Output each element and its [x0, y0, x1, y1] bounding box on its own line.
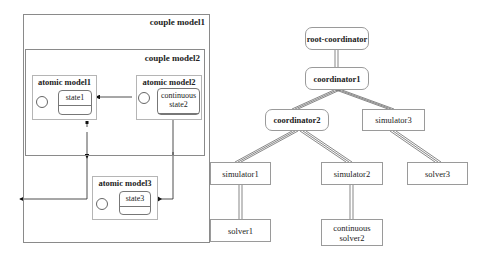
atomic-model1-label: atomic model1 [33, 77, 96, 87]
coordinator2-node: coordinator2 [265, 109, 329, 131]
root-coordinator-node: root-coordinator [305, 27, 369, 50]
coordinator1-label: coordinator1 [313, 74, 360, 84]
solver2-node: continuous solver2 [321, 219, 383, 246]
state1-box: state1 [58, 90, 92, 115]
solver3-label: solver3 [425, 169, 450, 179]
atomic-model1-box: atomic model1 state1 [32, 75, 97, 120]
initial-state-icon [138, 92, 150, 104]
solver1-node: solver1 [210, 219, 271, 242]
state3-label: state3 [120, 194, 150, 203]
solver2-label-line2: solver2 [339, 233, 364, 243]
state1-label: state1 [59, 93, 91, 102]
initial-state-icon [96, 198, 108, 210]
atomic-model3-box: atomic model3 state3 [92, 176, 158, 220]
state3-box: state3 [119, 191, 151, 215]
simulator3-node: simulator3 [362, 109, 425, 131]
couple-model2-label: couple model2 [145, 53, 200, 63]
coordinator1-node: coordinator1 [305, 67, 369, 90]
couple-model1-label: couple model1 [150, 17, 205, 27]
simulator1-node: simulator1 [210, 162, 271, 185]
solver2-label-line1: continuous [333, 223, 370, 233]
simulator3-label: simulator3 [375, 115, 411, 125]
atomic-model2-box: atomic model2 continuous state2 [136, 75, 202, 120]
root-coordinator-label: root-coordinator [307, 34, 368, 44]
state2-box: continuous state2 [157, 88, 200, 115]
solver1-label: solver1 [228, 226, 253, 236]
initial-state-icon [36, 96, 48, 108]
simulator2-label: simulator2 [334, 169, 370, 179]
atomic-model3-label: atomic model3 [93, 178, 157, 188]
simulator2-node: simulator2 [321, 162, 383, 185]
simulator1-label: simulator1 [222, 169, 258, 179]
coordinator2-label: coordinator2 [273, 115, 320, 125]
state2-label-line1: continuous [158, 91, 199, 100]
atomic-model2-label: atomic model2 [137, 77, 201, 87]
state2-label-line2: state2 [158, 100, 199, 109]
solver3-node: solver3 [407, 162, 468, 185]
